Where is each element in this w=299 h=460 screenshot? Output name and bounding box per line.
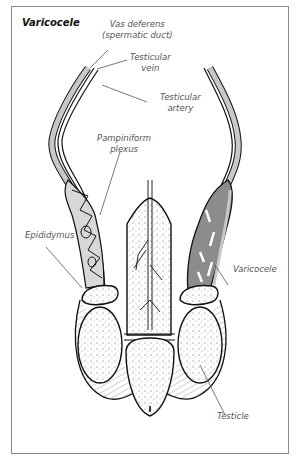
penis-shaft	[124, 180, 175, 340]
label-vas-deferens: Vas deferens (spermatic duct)	[102, 19, 173, 41]
glans	[126, 338, 174, 416]
label-epididymus: Epididymus	[25, 230, 74, 241]
right-spermatic-cord	[204, 68, 238, 190]
varicocele-mass	[187, 180, 232, 290]
left-epididymus	[82, 286, 118, 305]
label-pampiniform-plexus: Pampiniform plexus	[97, 133, 151, 155]
right-testicle	[178, 286, 222, 383]
left-testicle	[78, 286, 122, 383]
label-testicular-artery: Testicular artery	[160, 92, 201, 114]
diagram-title: Varicocele	[22, 17, 80, 28]
label-varicocele: Varicocele	[233, 264, 277, 275]
label-testicle: Testicle	[217, 411, 249, 422]
right-epididymus	[180, 286, 218, 305]
label-testicular-vein: Testicular vein	[130, 52, 171, 74]
